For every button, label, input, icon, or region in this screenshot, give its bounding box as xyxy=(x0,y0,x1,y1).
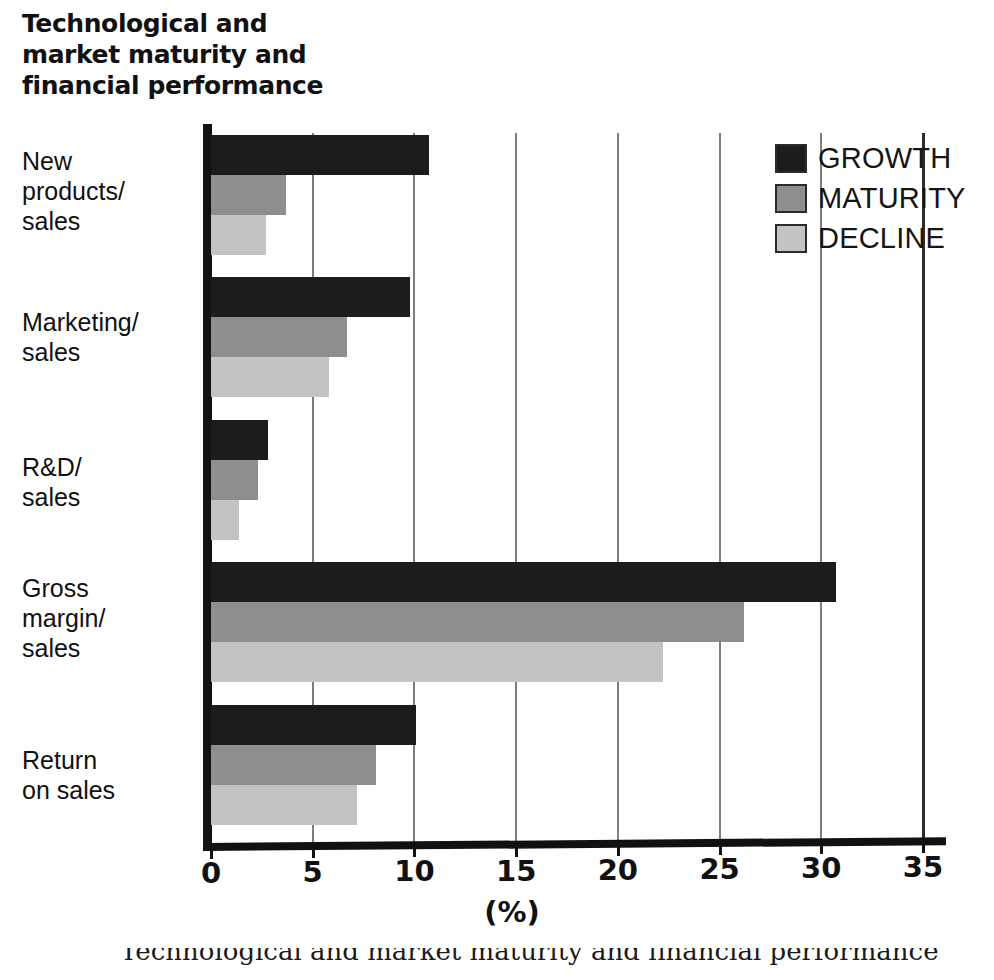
bar-group xyxy=(211,420,923,540)
legend-label: MATURITY xyxy=(818,184,966,213)
x-axis-title: (%) xyxy=(0,895,994,929)
bar-decline xyxy=(211,785,357,825)
bar-row xyxy=(211,500,923,540)
bar-decline xyxy=(211,500,239,540)
bar-decline xyxy=(211,215,266,255)
bar-growth xyxy=(211,420,268,460)
tick-label-10: 10 xyxy=(384,854,444,888)
tick-label-25: 25 xyxy=(690,852,750,886)
legend-swatch-icon xyxy=(775,224,807,253)
legend-label: GROWTH xyxy=(818,144,951,173)
caption-strip: Technological and market maturity and fi… xyxy=(0,948,994,980)
legend-swatch-icon xyxy=(775,144,807,173)
bar-row xyxy=(211,642,923,682)
legend-swatch-icon xyxy=(775,184,807,213)
tick-label-30: 30 xyxy=(791,851,851,885)
bar-maturity xyxy=(211,745,376,785)
bar-maturity xyxy=(211,175,286,215)
chart-legend: GROWTHMATURITYDECLINE xyxy=(775,140,966,260)
bar-row xyxy=(211,562,923,602)
bar-row xyxy=(211,277,923,317)
bar-row xyxy=(211,460,923,500)
category-label: New products/ sales xyxy=(22,146,202,236)
bar-decline xyxy=(211,357,329,397)
tick-label-35: 35 xyxy=(893,850,953,884)
tick-label-0: 0 xyxy=(181,856,241,890)
legend-item-growth[interactable]: GROWTH xyxy=(775,140,966,176)
bar-row xyxy=(211,785,923,825)
legend-label: DECLINE xyxy=(818,224,945,253)
bar-growth xyxy=(211,705,416,745)
tick-label-20: 20 xyxy=(588,853,648,887)
bar-growth xyxy=(211,562,836,602)
figure-caption: Technological and market maturity and fi… xyxy=(120,948,939,966)
bar-group xyxy=(211,277,923,397)
category-label: Gross margin/ sales xyxy=(22,573,202,663)
bar-row xyxy=(211,317,923,357)
category-label: Return on sales xyxy=(22,745,202,805)
bar-maturity xyxy=(211,317,347,357)
bar-maturity xyxy=(211,460,258,500)
bar-growth xyxy=(211,135,429,175)
bar-group xyxy=(211,705,923,825)
tick-label-15: 15 xyxy=(486,854,546,888)
tick-label-5: 5 xyxy=(283,855,343,889)
bar-row xyxy=(211,357,923,397)
page-title: Technological and market maturity and fi… xyxy=(22,8,352,101)
bar-maturity xyxy=(211,602,744,642)
legend-item-maturity[interactable]: MATURITY xyxy=(775,180,966,216)
bar-row xyxy=(211,420,923,460)
legend-item-decline[interactable]: DECLINE xyxy=(775,220,966,256)
bar-decline xyxy=(211,642,663,682)
bar-growth xyxy=(211,277,410,317)
bar-row xyxy=(211,602,923,642)
category-label: R&D/ sales xyxy=(22,452,202,512)
bar-group xyxy=(211,562,923,682)
chart-figure: Technological and market maturity and fi… xyxy=(0,0,994,980)
bar-row xyxy=(211,745,923,785)
category-label: Marketing/ sales xyxy=(22,307,202,367)
bar-row xyxy=(211,705,923,745)
